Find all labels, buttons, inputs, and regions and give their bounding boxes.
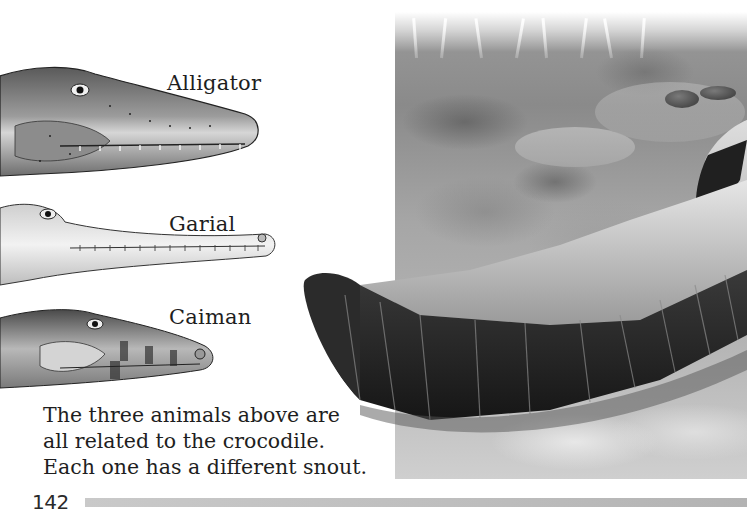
book-page: Alligator Garial xyxy=(0,0,747,517)
garial-label: Garial xyxy=(169,212,236,236)
rock xyxy=(700,86,736,100)
alligator-label: Alligator xyxy=(167,71,261,95)
garial-head-illustration xyxy=(0,200,280,295)
footer-rule xyxy=(85,498,747,507)
crocodile-tail-illustration xyxy=(300,120,747,450)
scene-top-fade xyxy=(395,12,747,52)
caption-paragraph: The three animals above are all related … xyxy=(43,402,383,480)
rock xyxy=(665,90,699,108)
page-number: 142 xyxy=(32,490,69,514)
caption-line: Each one has a different snout. xyxy=(43,454,383,480)
caiman-label: Caiman xyxy=(169,305,251,329)
caption-line: all related to the crocodile. xyxy=(43,428,383,454)
caption-line: The three animals above are xyxy=(43,402,383,428)
